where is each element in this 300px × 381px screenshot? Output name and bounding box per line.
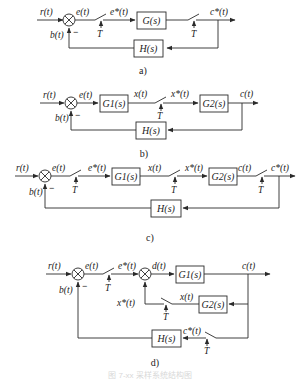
sampler-switch-icon [95,14,106,28]
signal-e: e(t) [76,7,89,18]
feedback-line [78,282,152,338]
figure-caption: 图 7-xx 采样系统结构图 [108,370,192,380]
sampler-period: T [204,346,210,356]
signal-c: c(t) [242,261,255,272]
signal-c-star: c*(t) [210,7,228,18]
signal-c-star: c*(t) [183,326,201,337]
caption-d: d) [151,357,159,369]
block-g-label: G(s) [143,15,161,27]
signal-x-star: x*(t) [116,298,135,309]
signal-e: e(t) [85,261,98,272]
block-g1-label: G1(s) [115,171,138,183]
feedback-line [45,184,151,208]
signal-c: c(t) [240,89,253,100]
signal-x: x(t) [179,292,193,303]
signal-e: e(t) [52,163,65,174]
line [145,282,164,304]
sampler-period: T [258,185,264,195]
sampler-switch-icon [155,97,166,111]
diagram-c: r(t) e(t) T e*(t) G1(s) x(t) T x*(t) G2(… [15,163,295,244]
summing-junction-icon [39,170,51,182]
signal-b: b(t) [29,187,43,198]
caption-a: a) [139,65,147,77]
sampler-switch-icon [70,170,81,184]
block-h-label: H(s) [157,333,176,345]
sampler-period: T [171,185,177,195]
diagram-a: r(t) e(t) T e*(t) G(s) T c*(t) [37,7,235,77]
signal-e-star: e*(t) [110,7,128,18]
signal-r: r(t) [48,261,61,272]
signal-b: b(t) [50,30,64,41]
signal-b: b(t) [55,113,69,124]
caption-c: c) [146,232,154,244]
summing-junction-icon [63,14,75,26]
summing-junction-icon [72,268,84,280]
signal-e-star: e*(t) [118,261,136,272]
signal-r: r(t) [43,90,56,101]
diagram-d: r(t) e(t) T e*(t) d(t) G1(s) c(t) G2(s) [46,261,270,369]
block-h-label: H(s) [156,203,175,215]
signal-r: r(t) [40,7,53,18]
signal-b: b(t) [59,285,73,296]
block-h-label: H(s) [141,125,160,137]
sampled-data-systems-figure: r(t) e(t) T e*(t) G(s) T c*(t) [0,0,300,381]
minus-sign: − [82,281,87,291]
signal-d: d(t) [152,261,166,272]
block-g1-label: G1(s) [103,98,126,110]
minus-sign: − [73,27,78,37]
sampler-switch-icon [103,268,114,282]
sampler-period: T [191,29,197,39]
sampler-switch-icon [188,14,199,28]
summing-junction-icon [139,268,151,280]
sampler-period: T [105,283,111,293]
sampler-switch-icon [161,298,172,312]
sampler-period: T [72,185,78,195]
inner-feedback-line [229,274,248,304]
signal-e-star: e*(t) [88,163,106,174]
sampler-period: T [97,29,103,39]
caption-b: b) [140,148,148,160]
signal-x-star: x*(t) [170,89,189,100]
minus-sign: − [49,183,54,193]
block-g2-label: G2(s) [202,299,225,311]
signal-c-star: c*(t) [271,163,289,174]
signal-x-star: x*(t) [184,163,203,174]
minus-sign: − [75,110,80,120]
sampler-switch-icon [169,170,180,184]
block-g2-label: G2(s) [212,171,235,183]
block-g2-label: G2(s) [203,98,226,110]
signal-e: e(t) [79,90,92,101]
sampler-switch-icon [256,170,267,184]
sampler-period: T [157,111,163,121]
block-g1-label: G1(s) [179,269,202,281]
block-h-label: H(s) [139,43,158,55]
signal-c: c(t) [238,163,251,174]
diagram-b: r(t) e(t) G1(s) x(t) T x*(t) G2(s) c(t) … [40,89,258,160]
summing-junction-icon [65,97,77,109]
signal-r: r(t) [16,163,29,174]
feedback-line [71,111,136,130]
sampler-period: T [163,312,169,322]
signal-x: x(t) [133,89,147,100]
signal-x: x(t) [147,163,161,174]
sampler-switch-icon [205,332,216,346]
